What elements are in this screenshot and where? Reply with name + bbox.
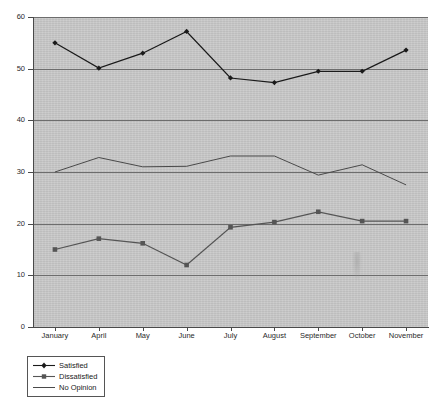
chart-legend: Satisfied Dissatisfied No Opinion <box>27 356 105 397</box>
series-layer <box>0 0 447 407</box>
data-point <box>140 241 145 246</box>
data-point <box>403 47 408 52</box>
legend-marker-square-icon <box>32 371 56 382</box>
legend-marker-diamond-icon <box>32 360 56 371</box>
series-no-opinion <box>55 156 406 185</box>
data-point <box>97 236 102 241</box>
data-point <box>53 247 58 252</box>
series-satisfied <box>52 29 408 85</box>
legend-item-dissatisfied[interactable]: Dissatisfied <box>32 371 97 382</box>
data-point <box>96 66 101 71</box>
legend-item-no-opinion[interactable]: No Opinion <box>32 382 97 393</box>
data-point <box>184 263 189 268</box>
series-line <box>55 212 406 265</box>
data-point <box>404 219 409 224</box>
data-point <box>316 69 321 74</box>
series-line <box>55 156 406 185</box>
data-point <box>316 209 321 214</box>
legend-item-satisfied[interactable]: Satisfied <box>32 360 97 371</box>
data-point <box>272 80 277 85</box>
data-point <box>228 225 233 230</box>
data-point <box>140 51 145 56</box>
legend-label-no-opinion: No Opinion <box>56 382 97 393</box>
line-chart: 0102030405060 JanuaryAprilMayJuneJulyAug… <box>0 0 447 407</box>
data-point <box>360 219 365 224</box>
legend-label-dissatisfied: Dissatisfied <box>56 371 97 382</box>
series-line <box>55 32 406 83</box>
data-point <box>52 40 57 45</box>
series-dissatisfied <box>53 209 409 267</box>
legend-marker-line-icon <box>32 382 56 393</box>
data-point <box>272 220 277 225</box>
data-point <box>360 69 365 74</box>
legend-label-satisfied: Satisfied <box>56 360 88 371</box>
